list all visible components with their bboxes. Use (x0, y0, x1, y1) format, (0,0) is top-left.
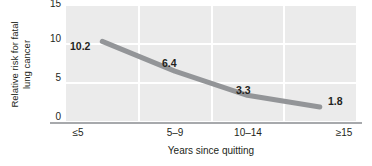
data-label-0: 10.2 (70, 41, 90, 52)
x-tick-label-2: 10–14 (234, 127, 262, 139)
x-axis-line (50, 122, 362, 124)
x-tick-label-0: ≤5 (72, 127, 83, 139)
series-line (66, 4, 356, 121)
x-axis-tick-labels: ≤5 5–9 10–14 ≥15 (66, 127, 356, 143)
y-tick-label-15: 15 (41, 0, 61, 9)
y-axis-title-line-1: Relative risk for fatal (9, 21, 21, 107)
data-label-2: 3.3 (236, 85, 251, 96)
y-tick-label-10: 10 (41, 34, 61, 44)
x-tick-label-3: ≥15 (336, 127, 353, 139)
y-axis-tick-labels: 0 5 10 15 (41, 0, 61, 128)
x-tick-label-1: 5–9 (167, 127, 184, 139)
y-tick-label-5: 5 (41, 73, 61, 83)
x-axis-title: Years since quitting (66, 145, 356, 157)
line-chart-figure: Relative risk for fatal lung cancer 0 5 … (0, 0, 372, 166)
data-label-1: 6.4 (162, 58, 177, 69)
y-axis-title: Relative risk for fatal lung cancer (0, 0, 40, 128)
y-tick-label-0: 0 (41, 112, 61, 122)
data-label-3: 1.8 (328, 96, 343, 107)
y-axis-title-line-2: lung cancer (20, 21, 32, 107)
series-polyline (102, 41, 319, 107)
plot-area (66, 4, 356, 121)
